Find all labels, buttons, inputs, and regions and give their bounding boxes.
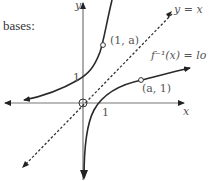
logarithm-curve [84,68,190,178]
x-axis-label: x [183,106,189,117]
y-axis-label: y [75,0,81,11]
point-1-a-marker [101,43,106,48]
intro-text: bases: [3,19,35,32]
x-tick-label: 1 [102,107,109,118]
point-a-1-label: (a, 1) [142,83,171,94]
y-tick-label: 1 [73,72,80,83]
inverse-function-label: f⁻¹(x) = lo [151,50,206,61]
logarithm-arrow-bottom [80,170,88,180]
identity-label: y = x [174,4,203,15]
point-1-a-label: (1, a) [110,35,139,46]
exponential-curve [24,0,112,100]
identity-arrow-bottom [22,161,29,168]
